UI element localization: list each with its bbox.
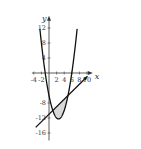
y-tick-label: -16 <box>36 129 46 137</box>
y-axis-label: y <box>41 14 47 23</box>
x-tick-label: -4 <box>31 76 37 84</box>
graph-plot: -4-22468101284-8-12-16xy <box>0 0 141 149</box>
x-tick-label: 8 <box>77 76 81 84</box>
tick-labels: -4-22468101284-8-12-16xy <box>31 14 100 138</box>
x-tick-label: 2 <box>55 76 59 84</box>
y-axis-arrow-icon <box>47 16 51 21</box>
y-tick-label: 12 <box>38 24 46 32</box>
x-axis-label: x <box>95 72 100 81</box>
y-tick-label: -12 <box>36 114 46 122</box>
x-tick-label: 10 <box>83 76 91 84</box>
x-tick-label: 4 <box>62 76 66 84</box>
x-axis-arrow-icon <box>88 71 93 75</box>
x-tick-label: 6 <box>70 76 74 84</box>
y-tick-label: -8 <box>40 99 46 107</box>
y-tick-label: 8 <box>42 39 46 47</box>
x-tick-label: -2 <box>38 76 44 84</box>
y-tick-label: 4 <box>42 54 46 62</box>
